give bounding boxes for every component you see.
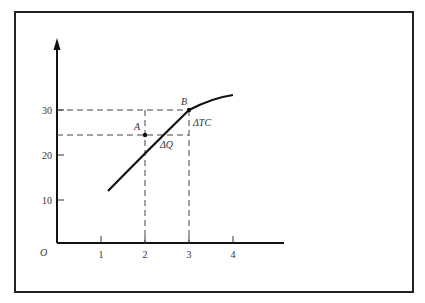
point-a-label: A [133, 121, 141, 132]
y-ticks [57, 110, 64, 200]
origin-label: O [40, 247, 47, 258]
point-b-label: B [181, 96, 187, 107]
frame-border [15, 12, 413, 292]
x-ticks [101, 236, 233, 243]
x-tick-label: 1 [99, 249, 104, 260]
delta-q-label: ΔQ [159, 139, 174, 150]
x-tick-label: 3 [187, 249, 192, 260]
x-tick-label: 2 [143, 249, 148, 260]
y-tick-label: 10 [42, 195, 52, 206]
y-tick-label: 20 [42, 150, 52, 161]
point-a [143, 133, 147, 137]
point-b [187, 108, 191, 112]
x-tick-label: 4 [231, 249, 236, 260]
chart: O 1 2 3 4 10 20 30 A B ΔQ ΔTC [0, 0, 425, 303]
y-axis-arrow-icon [54, 38, 61, 50]
y-tick-label: 30 [42, 105, 52, 116]
delta-tc-label: ΔTC [192, 117, 211, 128]
